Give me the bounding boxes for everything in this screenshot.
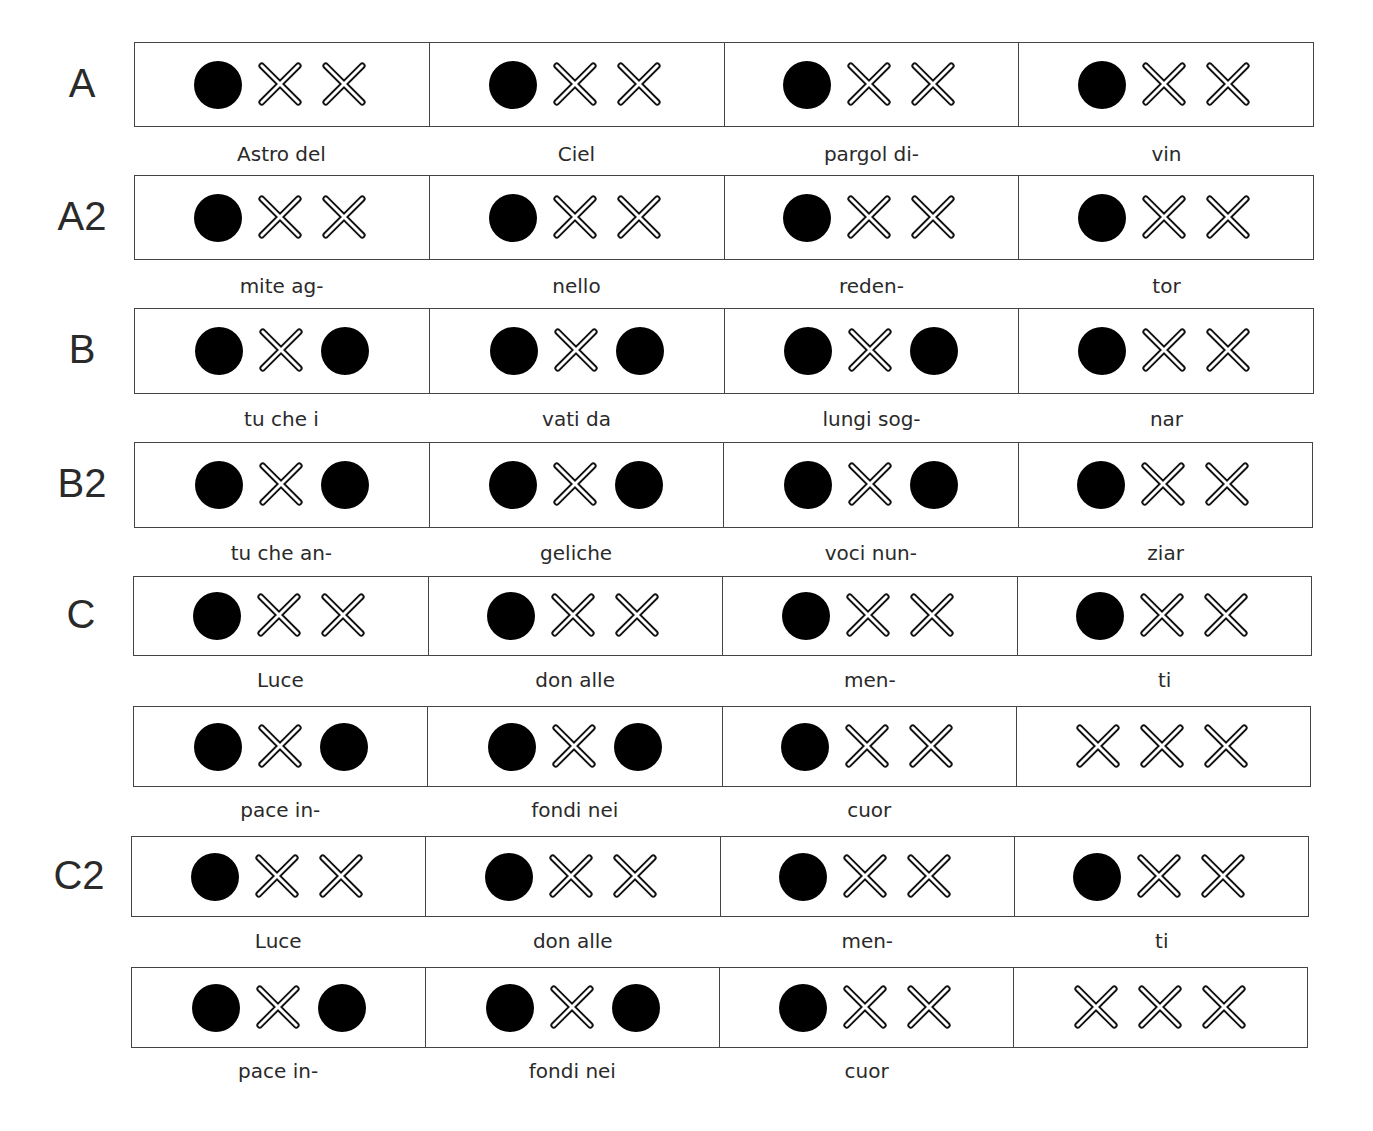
filled-circle-icon [191, 853, 239, 901]
lyric-syllable: fondi nei [425, 1059, 719, 1083]
filled-circle-icon [485, 853, 533, 901]
lyric-syllable: don alle [426, 929, 721, 953]
x-rest-icon [907, 722, 957, 772]
x-rest-icon [1203, 460, 1253, 510]
x-rest-icon [1140, 60, 1190, 110]
filled-circle-icon [784, 461, 832, 509]
filled-circle-icon [1078, 194, 1126, 242]
lyric-syllable: ziar [1018, 541, 1313, 565]
measure-cell [1019, 176, 1313, 259]
lyric-syllable [1017, 798, 1312, 822]
x-rest-icon [613, 591, 663, 641]
x-rest-icon [1140, 326, 1190, 376]
filled-circle-icon [1077, 461, 1125, 509]
x-rest-icon [255, 591, 305, 641]
lyrics-row: tu che ivati dalungi sog-nar [134, 407, 1314, 431]
x-rest-icon [551, 460, 601, 510]
filled-circle-icon [321, 461, 369, 509]
filled-circle-icon [910, 461, 958, 509]
filled-circle-icon [489, 61, 537, 109]
rhythm-row-0 [134, 42, 1314, 127]
measure-cell [426, 837, 720, 916]
lyric-syllable: lungi sog- [724, 407, 1019, 431]
filled-circle-icon [194, 194, 242, 242]
measure-cell [1015, 837, 1308, 916]
filled-circle-icon [779, 853, 827, 901]
x-rest-icon [320, 60, 370, 110]
measure-cell [720, 968, 1014, 1047]
measure-cell [430, 443, 725, 527]
lyric-syllable: Astro del [134, 142, 429, 166]
lyric-syllable: geliche [429, 541, 724, 565]
x-rest-icon [1138, 722, 1188, 772]
lyric-syllable: don alle [428, 668, 723, 692]
measure-cell [135, 176, 430, 259]
lyric-syllable: tor [1019, 274, 1314, 298]
filled-circle-icon [318, 984, 366, 1032]
lyrics-row: mite ag-nelloreden-tor [134, 274, 1314, 298]
filled-circle-icon [616, 327, 664, 375]
x-rest-icon [1200, 983, 1250, 1033]
lyric-syllable [1014, 1059, 1308, 1083]
filled-circle-icon [489, 194, 537, 242]
x-rest-icon [1136, 983, 1186, 1033]
x-rest-icon [1204, 60, 1254, 110]
filled-circle-icon [910, 327, 958, 375]
lyric-syllable: nar [1019, 407, 1314, 431]
x-rest-icon [908, 591, 958, 641]
lyric-syllable: tu che i [134, 407, 429, 431]
filled-circle-icon [195, 461, 243, 509]
measure-cell [721, 837, 1015, 916]
x-rest-icon [1135, 852, 1185, 902]
filled-circle-icon [194, 723, 242, 771]
x-rest-icon [253, 852, 303, 902]
x-rest-icon [846, 326, 896, 376]
filled-circle-icon [612, 984, 660, 1032]
section-label: C2 [39, 855, 119, 895]
measure-cell [1019, 443, 1313, 527]
measure-cell [723, 707, 1017, 786]
lyric-syllable: pargol di- [724, 142, 1019, 166]
lyric-syllable: voci nun- [724, 541, 1019, 565]
x-rest-icon [844, 591, 894, 641]
filled-circle-icon [1078, 61, 1126, 109]
measure-cell [725, 176, 1020, 259]
x-rest-icon [909, 60, 959, 110]
lyric-syllable: Luce [131, 929, 426, 953]
measure-cell [428, 707, 722, 786]
x-rest-icon [256, 722, 306, 772]
measure-cell [724, 443, 1019, 527]
x-rest-icon [615, 60, 665, 110]
filled-circle-icon [614, 723, 662, 771]
lyric-syllable: vati da [429, 407, 724, 431]
measure-cell [430, 43, 725, 126]
filled-circle-icon [779, 984, 827, 1032]
filled-circle-icon [1076, 592, 1124, 640]
x-rest-icon [1074, 722, 1124, 772]
filled-circle-icon [194, 61, 242, 109]
x-rest-icon [1204, 193, 1254, 243]
measure-cell [134, 577, 429, 655]
measure-cell [430, 309, 725, 393]
section-label: C [41, 594, 121, 634]
filled-circle-icon [320, 723, 368, 771]
filled-circle-icon [781, 723, 829, 771]
x-rest-icon [257, 460, 307, 510]
lyric-syllable: Ciel [429, 142, 724, 166]
lyric-syllable: pace in- [131, 1059, 425, 1083]
rhythm-row-3 [134, 442, 1313, 528]
lyrics-row: Astro delCielpargol di-vin [134, 142, 1314, 166]
section-label: A2 [42, 196, 122, 236]
filled-circle-icon [489, 461, 537, 509]
x-rest-icon [845, 60, 895, 110]
measure-cell [1019, 309, 1313, 393]
measure-cell [1019, 43, 1313, 126]
measure-cell [132, 837, 426, 916]
lyrics-row: Lucedon allemen-ti [133, 668, 1312, 692]
x-rest-icon [1138, 591, 1188, 641]
rhythm-row-5 [133, 706, 1311, 787]
x-rest-icon [611, 852, 661, 902]
lyrics-row: pace in-fondi neicuor [131, 1059, 1308, 1083]
measure-cell [135, 309, 430, 393]
measure-cell [429, 577, 724, 655]
